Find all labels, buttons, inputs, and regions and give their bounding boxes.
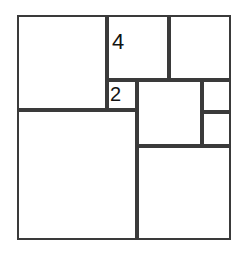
square-top-right bbox=[169, 15, 231, 80]
square-bottom-left bbox=[17, 110, 137, 240]
square-middle bbox=[137, 80, 202, 146]
squared-square-diagram: 4 2 bbox=[0, 0, 239, 257]
square-label-4: 4 bbox=[112, 31, 124, 53]
square-top-left bbox=[17, 15, 107, 110]
square-label-2: 2 bbox=[110, 84, 121, 104]
square-right-upper bbox=[202, 80, 231, 112]
square-bottom-right bbox=[137, 146, 231, 240]
square-right-lower bbox=[202, 112, 231, 146]
